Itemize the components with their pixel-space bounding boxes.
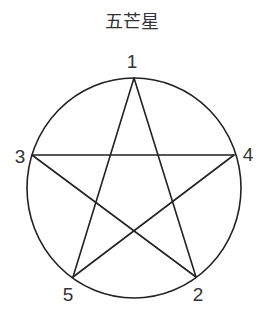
pentagram-diagram: 五芒星 1 2 3 4 5 — [0, 0, 270, 320]
figure-title: 五芒星 — [105, 11, 159, 32]
edge-2-3 — [32, 155, 196, 277]
edge-5-1 — [73, 78, 134, 277]
vertex-label-2: 2 — [193, 284, 204, 305]
vertex-label-4: 4 — [243, 144, 254, 165]
edge-4-5 — [73, 155, 234, 277]
edge-1-2 — [134, 78, 196, 277]
circumscribed-circle — [27, 78, 241, 298]
pentagram-figure: 五芒星 1 2 3 4 5 — [0, 0, 270, 320]
vertex-label-1: 1 — [127, 51, 138, 72]
vertex-label-5: 5 — [63, 284, 74, 305]
vertex-label-3: 3 — [15, 146, 26, 167]
